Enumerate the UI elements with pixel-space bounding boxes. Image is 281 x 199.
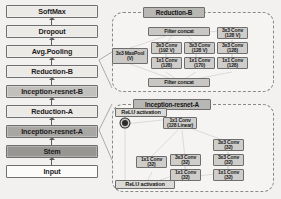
node-label: ReLU activation (121, 110, 160, 116)
node-label-line2: (32) (181, 160, 189, 165)
block-label: SoftMax (38, 8, 65, 15)
node-label-line2: (32) (224, 175, 232, 180)
block-label: Inception-resnet-B (21, 88, 83, 95)
reduction-b-branch-d-conv3x3-a[interactable]: 3x3 Conv (128 V) (217, 27, 248, 39)
node-label-line2: (32) (224, 160, 232, 165)
pipeline-block-input[interactable]: Input (6, 165, 98, 178)
node-label: Filter concat (164, 80, 193, 86)
block-label: Reduction-B (31, 68, 73, 75)
reduction-b-panel-title: Reduction-B (143, 7, 205, 18)
inception-resnet-a-linear-conv[interactable]: 1x1 Conv (128 Linear) (163, 117, 197, 129)
arrow-inceptiona-to-reductiona (51, 118, 52, 125)
node-label-line2: (128 V) (225, 33, 240, 38)
reduction-b-maxpool[interactable]: 3x3 MaxPool (V) (112, 48, 148, 64)
block-label: Inception-resnet-A (21, 128, 83, 135)
node-label-line2: (128) (227, 63, 238, 68)
node-label-line2: (128) (161, 63, 172, 68)
arrow-stem-to-inceptiona (51, 138, 52, 145)
arrow-reductionb-to-avgpool (51, 58, 52, 65)
node-label-line2: (170) (194, 63, 205, 68)
reduction-b-branch-d-conv3x3-b[interactable]: 3x3 Conv (128) (217, 42, 248, 54)
inception-resnet-a-relu-top[interactable]: ReLU activation (115, 108, 167, 117)
inception-resnet-a-branch-a-conv1x1[interactable]: 1x1 Conv (32) (136, 156, 167, 168)
reduction-b-branch-b-conv3x3[interactable]: 3x3 Conv (192 V) (151, 42, 182, 54)
arrow-reductiona-to-inceptionb (51, 98, 52, 105)
inception-resnet-a-branch-b-conv1x1[interactable]: 1x1 Conv (32) (170, 169, 201, 181)
block-label: Reduction-A (31, 108, 73, 115)
arrow-inceptionb-to-reductionb (51, 78, 52, 85)
reduction-b-bottom-filter-concat[interactable]: Filter concat (148, 78, 210, 87)
inception-resnet-a-branch-c-conv3x3-b[interactable]: 3x3 Conv (32) (213, 154, 244, 166)
reduction-b-branch-d-conv1x1[interactable]: 1x1 Conv (128) (217, 57, 248, 69)
block-label: Input (43, 168, 60, 175)
node-label-line2: (128) (227, 48, 238, 53)
node-label-line2: (V) (127, 56, 133, 61)
inception-resnet-a-branch-c-conv1x1[interactable]: 1x1 Conv (32) (213, 169, 244, 181)
reduction-b-branch-c-conv3x3[interactable]: 3x3 Conv (128 V) (184, 42, 215, 54)
diagram-canvas: SoftMax Dropout Avg.Pooling Reduction-B … (0, 0, 281, 199)
reduction-b-branch-b-conv1x1[interactable]: 1x1 Conv (128) (151, 57, 182, 69)
arrow-input-to-stem (51, 158, 52, 165)
node-label-line2: (192 V) (159, 48, 174, 53)
inception-resnet-a-branch-b-conv3x3[interactable]: 3x3 Conv (32) (170, 154, 201, 166)
node-label-line2: (32) (147, 162, 155, 167)
node-label: ReLU activation (125, 182, 164, 188)
block-label: Avg.Pooling (32, 48, 73, 55)
node-label-line2: (128 Linear) (167, 123, 193, 128)
node-label: Filter concat (164, 29, 193, 35)
block-label: Stem (43, 148, 60, 155)
reduction-b-top-filter-concat[interactable]: Filter concat (148, 27, 210, 36)
node-label-line2: (128 V) (192, 48, 207, 53)
node-label-line2: (32) (181, 175, 189, 180)
node-label-line2: (32) (224, 145, 232, 150)
panel-title-label: Inception-resnet-A (145, 101, 199, 108)
residual-add-node[interactable] (122, 120, 128, 126)
reduction-b-branch-c-conv1x1[interactable]: 1x1 Conv (170) (184, 57, 215, 69)
panel-title-label: Reduction-B (156, 9, 192, 16)
arrow-dropout-to-softmax (51, 18, 52, 25)
arrow-avgpool-to-dropout (51, 38, 52, 45)
inception-resnet-a-relu-bottom[interactable]: ReLU activation (115, 180, 175, 189)
inception-resnet-a-branch-c-conv3x3-a[interactable]: 3x3 Conv (32) (213, 139, 244, 151)
block-label: Dropout (38, 28, 65, 35)
